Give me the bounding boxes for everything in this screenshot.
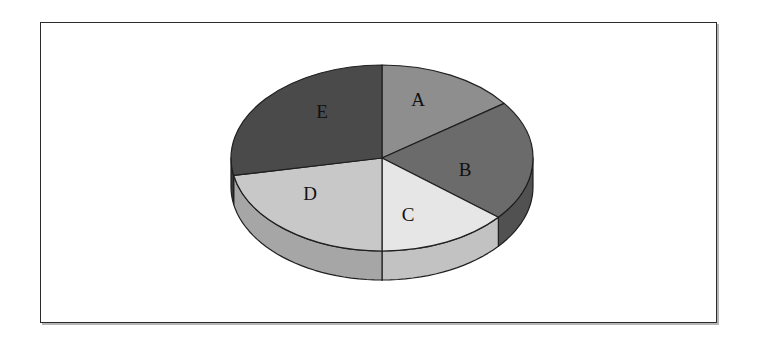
pie-chart-3d xyxy=(0,0,758,347)
figure-root: ABCDE pie xyxy=(0,0,758,347)
pie-slice-label-b: B xyxy=(459,160,472,179)
pie-slice-label-e: E xyxy=(316,102,328,121)
pie-top-faces xyxy=(231,65,533,251)
pie-slice-label-a: A xyxy=(411,90,425,109)
pie-slice-e[interactable] xyxy=(231,65,382,175)
pie-slice-label-c: C xyxy=(402,205,415,224)
pie-slice-label-d: D xyxy=(303,184,317,203)
